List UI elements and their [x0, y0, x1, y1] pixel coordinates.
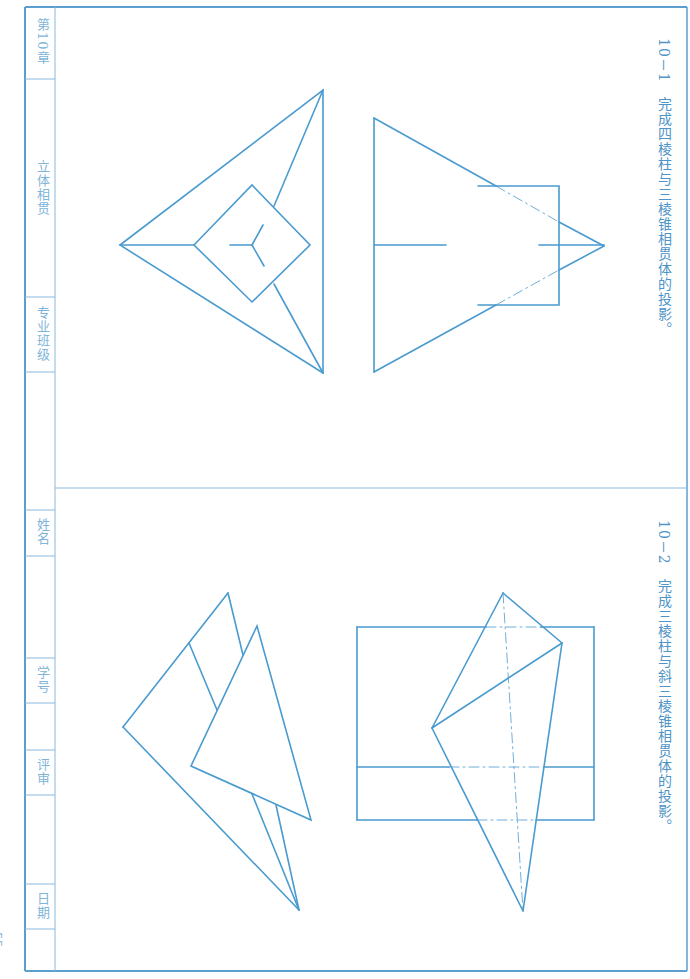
sidebar-review-field[interactable] — [28, 797, 52, 882]
drawing-10-1-top-view — [120, 90, 323, 373]
page-number: 55 — [0, 932, 4, 947]
sidebar-date-field[interactable] — [28, 931, 52, 969]
drawing-10-2-top-view — [123, 593, 311, 910]
sidebar-name-label: 姓名 — [33, 518, 52, 546]
sidebar-chapter-label: 第10章 — [33, 18, 52, 65]
sidebar-class-field[interactable] — [28, 374, 52, 508]
sidebar-student-id-label: 学号 — [33, 666, 52, 694]
sidebar-review-label: 评审 — [33, 758, 52, 786]
exercise-1-title: 10－1完成四棱柱与三棱锥相贯体的投影。 — [654, 38, 674, 337]
sidebar-date-label: 日期 — [33, 892, 52, 920]
sidebar-topic-label: 立体相贯 — [33, 160, 52, 216]
exercise-2-number: 10－2 — [654, 520, 674, 565]
drawing-10-1-front-view — [374, 118, 604, 372]
drawing-10-2-front-view — [357, 593, 594, 911]
sidebar-class-label: 专业班级 — [33, 306, 52, 362]
exercise-2-text: 完成三棱柱与斜三棱锥相贯体的投影。 — [656, 579, 672, 834]
page-frame — [25, 7, 687, 971]
sidebar-name-field[interactable] — [28, 558, 52, 656]
exercise-1-text: 完成四棱柱与三棱锥相贯体的投影。 — [656, 97, 672, 337]
sidebar-student-id-field[interactable] — [28, 705, 52, 748]
exercise-1-number: 10－1 — [654, 38, 674, 83]
exercise-2-title: 10－2完成三棱柱与斜三棱锥相贯体的投影。 — [654, 520, 674, 834]
worksheet-page: 第10章 立体相贯 专业班级 姓名 学号 评审 日期 10－1完成四棱柱与三棱锥… — [0, 0, 690, 979]
